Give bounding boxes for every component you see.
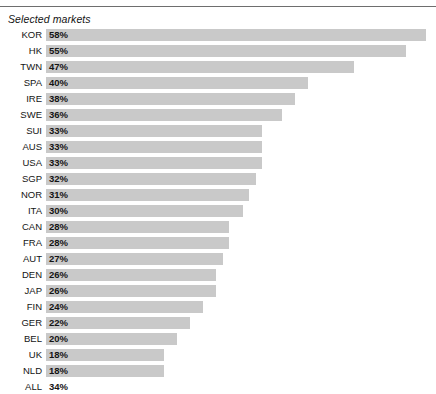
bar-row-bar xyxy=(46,61,354,73)
bar-row-value: 26% xyxy=(49,285,68,297)
bar-row-label: CAN xyxy=(0,221,42,233)
bar-row: CAN28% xyxy=(0,221,436,237)
bar-row-label: HK xyxy=(0,45,42,57)
bar-row: SWE36% xyxy=(0,109,436,125)
bar-row-value: 55% xyxy=(49,45,68,57)
bar-row-value: 26% xyxy=(49,269,68,281)
bar-row-label: USA xyxy=(0,157,42,169)
bar-row-label: SWE xyxy=(0,109,42,121)
bar-row-bar xyxy=(46,125,262,137)
bar-row-bar xyxy=(46,173,256,185)
bar-row: JAP26% xyxy=(0,285,436,301)
bar-row-value: 58% xyxy=(49,29,68,41)
bar-row: HK55% xyxy=(0,45,436,61)
bar-row-value: 36% xyxy=(49,109,68,121)
bar-row-bar xyxy=(46,189,249,201)
bar-row: BEL20% xyxy=(0,333,436,349)
bar-row-value: 33% xyxy=(49,157,68,169)
bar-row-label: KOR xyxy=(0,29,42,41)
bar-row-bar xyxy=(46,45,406,57)
bar-row-value: 18% xyxy=(49,365,68,377)
bar-row-label: SGP xyxy=(0,173,42,185)
bar-row-value: 31% xyxy=(49,189,68,201)
bar-row-label: AUS xyxy=(0,141,42,153)
bar-row-value: 32% xyxy=(49,173,68,185)
bar-row-bar xyxy=(46,285,216,297)
bar-row-label: NOR xyxy=(0,189,42,201)
bar-row-value: 33% xyxy=(49,141,68,153)
chart-title: Selected markets xyxy=(8,13,91,25)
bar-row-value: 28% xyxy=(49,221,68,233)
bar-row-value: 24% xyxy=(49,301,68,313)
bar-row-value: 28% xyxy=(49,237,68,249)
bar-row: FRA28% xyxy=(0,237,436,253)
bar-row: SPA40% xyxy=(0,77,436,93)
bar-row-value: 40% xyxy=(49,77,68,89)
bar-rows: KOR58%HK55%TWN47%SPA40%IRE38%SWE36%SUI33… xyxy=(0,29,436,394)
bar-row: SUI33% xyxy=(0,125,436,141)
bar-row-value: 47% xyxy=(49,61,68,73)
bar-row-label: ITA xyxy=(0,205,42,217)
bar-row-value: 18% xyxy=(49,349,68,361)
bar-row-value: 22% xyxy=(49,317,68,329)
bar-row-bar xyxy=(46,29,426,41)
bar-row: USA33% xyxy=(0,157,436,173)
bar-row-bar xyxy=(46,301,203,313)
bar-row: NOR31% xyxy=(0,189,436,205)
bar-row-label: FIN xyxy=(0,301,42,313)
bar-row-bar xyxy=(46,237,229,249)
bar-row: UK18% xyxy=(0,349,436,365)
bar-row-label: IRE xyxy=(0,93,42,105)
bar-row-value: 38% xyxy=(49,93,68,105)
bar-row: IRE38% xyxy=(0,93,436,109)
bar-row: ALL34% xyxy=(0,381,436,394)
bar-row: AUT27% xyxy=(0,253,436,269)
bar-row-bar xyxy=(46,141,262,153)
bar-row: AUS33% xyxy=(0,141,436,157)
bar-row-label: JAP xyxy=(0,285,42,297)
bar-row-bar xyxy=(46,269,216,281)
bar-row-bar xyxy=(46,109,282,121)
bar-row-label: GER xyxy=(0,317,42,329)
bar-row-bar xyxy=(46,157,262,169)
bar-row-label: TWN xyxy=(0,61,42,73)
bar-row-value: 27% xyxy=(49,253,68,265)
bar-row-bar xyxy=(46,77,308,89)
bar-row-bar xyxy=(46,221,229,233)
bar-row: TWN47% xyxy=(0,61,436,77)
bar-row-bar xyxy=(46,253,223,265)
bar-row-label: SUI xyxy=(0,125,42,137)
bar-row: SGP32% xyxy=(0,173,436,189)
bar-row-value: 34% xyxy=(49,381,68,393)
bar-row-bar xyxy=(46,205,243,217)
bar-row-label: BEL xyxy=(0,333,42,345)
bar-row: DEN26% xyxy=(0,269,436,285)
bar-row-label: DEN xyxy=(0,269,42,281)
bar-row: NLD18% xyxy=(0,365,436,381)
bar-row-label: NLD xyxy=(0,365,42,377)
bar-row: KOR58% xyxy=(0,29,436,45)
bar-row: ITA30% xyxy=(0,205,436,221)
bar-row-label: SPA xyxy=(0,77,42,89)
bar-row-label: AUT xyxy=(0,253,42,265)
header-rule xyxy=(0,6,436,7)
bar-row: FIN24% xyxy=(0,301,436,317)
bar-row-value: 33% xyxy=(49,125,68,137)
bar-row-bar xyxy=(46,93,295,105)
bar-row-label: ALL xyxy=(0,381,42,393)
bar-row-label: FRA xyxy=(0,237,42,249)
bar-row-value: 30% xyxy=(49,205,68,217)
bar-row-label: UK xyxy=(0,349,42,361)
bar-row: GER22% xyxy=(0,317,436,333)
bar-row-value: 20% xyxy=(49,333,68,345)
